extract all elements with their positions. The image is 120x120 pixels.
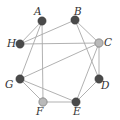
edge-a-f [42,21,43,102]
node-a [38,17,46,25]
node-h [16,40,24,48]
node-label-a: A [33,5,42,17]
edge-b-h [20,20,75,44]
node-c [95,39,103,47]
edge-b-c [75,20,99,43]
edge-g-f [20,79,43,102]
node-label-c: C [104,36,112,48]
graph-diagram: ABCDEFGH [0,0,120,120]
node-b [71,16,79,24]
node-g [16,75,24,83]
node-label-g: G [5,78,13,90]
node-label-b: B [73,5,82,17]
edges-group [20,20,99,102]
edge-b-d [75,20,99,79]
node-label-h: H [6,37,17,49]
edge-a-h [20,21,42,44]
edge-g-e [20,79,76,102]
node-label-e: E [72,105,81,117]
node-label-d: D [100,79,110,91]
node-label-f: F [35,105,44,117]
edge-d-e [76,79,99,102]
edge-h-c [20,43,99,44]
